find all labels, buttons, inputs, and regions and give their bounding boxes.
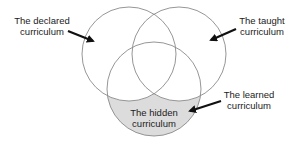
taught-label-line1: The taught xyxy=(234,15,290,26)
hidden-curriculum-label: The hidden curriculum xyxy=(125,107,183,129)
taught-curriculum-label: The taught curriculum xyxy=(234,15,290,37)
hidden-label-line2: curriculum xyxy=(125,118,183,129)
learned-curriculum-label: The learned curriculum xyxy=(221,89,277,111)
hidden-label-line1: The hidden xyxy=(125,107,183,118)
learned-label-line1: The learned xyxy=(221,89,277,100)
declared-label-line2: curriculum xyxy=(12,26,72,37)
declared-label-line1: The declared xyxy=(12,15,72,26)
taught-label-line2: curriculum xyxy=(234,26,290,37)
declared-curriculum-label: The declared curriculum xyxy=(12,15,72,37)
learned-label-line2: curriculum xyxy=(221,100,277,111)
